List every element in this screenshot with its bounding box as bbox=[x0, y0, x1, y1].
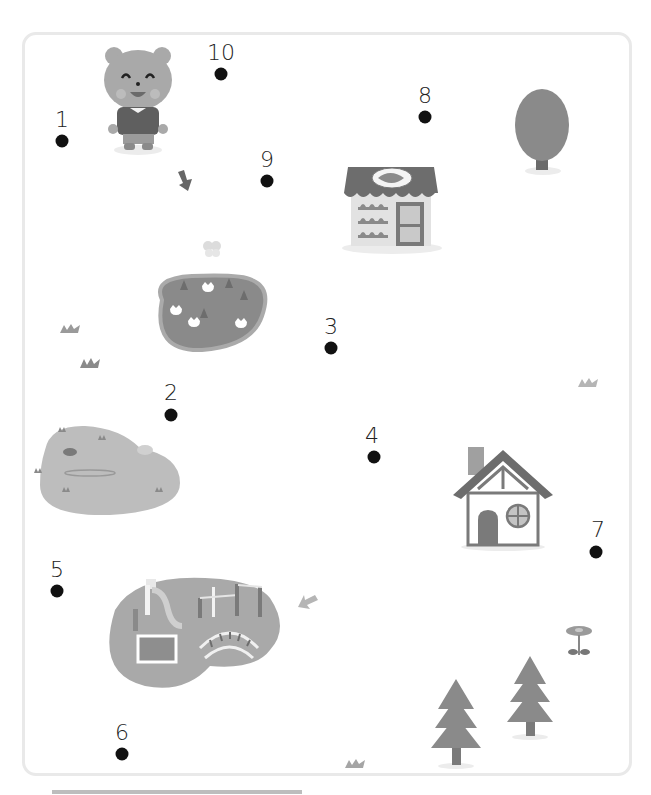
dot-label-1: 1 bbox=[55, 109, 69, 131]
bottom-bar bbox=[52, 790, 302, 794]
arrow-down-left-icon bbox=[298, 595, 318, 609]
dot-1[interactable] bbox=[56, 135, 69, 148]
dot-label-7: 7 bbox=[591, 519, 605, 541]
pine-tree-small bbox=[507, 656, 553, 740]
dot-10[interactable] bbox=[215, 68, 228, 81]
dot-label-4: 4 bbox=[365, 425, 379, 447]
butterfly bbox=[203, 241, 221, 257]
dot-4[interactable] bbox=[368, 451, 381, 464]
dot-label-6: 6 bbox=[115, 722, 129, 744]
dot-3[interactable] bbox=[325, 342, 338, 355]
arrow-down-icon bbox=[178, 170, 192, 191]
dot-7[interactable] bbox=[590, 546, 603, 559]
dot-2[interactable] bbox=[165, 409, 178, 422]
dot-9[interactable] bbox=[261, 175, 274, 188]
dot-label-2: 2 bbox=[164, 382, 178, 404]
cottage-house bbox=[453, 447, 553, 551]
flower bbox=[566, 626, 592, 655]
dot-8[interactable] bbox=[419, 111, 432, 124]
bear-character bbox=[104, 47, 172, 155]
dot-label-8: 8 bbox=[418, 85, 432, 107]
dot-label-9: 9 bbox=[260, 149, 274, 171]
flower-garden bbox=[160, 276, 265, 351]
dot-label-10: 10 bbox=[207, 42, 235, 64]
scene-artwork bbox=[0, 0, 651, 795]
round-tree bbox=[515, 89, 569, 175]
pine-tree bbox=[431, 679, 481, 769]
playground bbox=[109, 578, 280, 688]
dot-label-5: 5 bbox=[50, 559, 64, 581]
bakery-shop bbox=[342, 167, 442, 254]
dot-5[interactable] bbox=[51, 585, 64, 598]
pond bbox=[34, 426, 180, 515]
dot-label-3: 3 bbox=[324, 316, 338, 338]
dot-6[interactable] bbox=[116, 748, 129, 761]
